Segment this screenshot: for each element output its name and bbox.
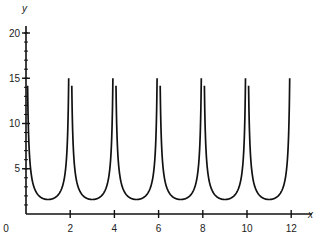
x-tick-label: 10 xyxy=(241,223,253,234)
chart: xy0246810125101520 xyxy=(0,0,318,236)
x-tick-label: 2 xyxy=(67,223,73,234)
x-tick-label: 8 xyxy=(200,223,206,234)
plot-area: xy0246810125101520 xyxy=(0,0,318,236)
x-axis-label: x xyxy=(307,209,314,220)
y-axis-label: y xyxy=(21,3,28,14)
y-tick-label: 15 xyxy=(9,73,21,84)
x-tick-label: 0 xyxy=(3,223,9,234)
x-tick-label: 6 xyxy=(156,223,162,234)
y-tick-label: 20 xyxy=(9,28,21,39)
x-tick-label: 4 xyxy=(112,223,118,234)
y-tick-label: 5 xyxy=(14,163,20,174)
y-tick-label: 10 xyxy=(9,118,21,129)
x-tick-label: 12 xyxy=(286,223,298,234)
data-line xyxy=(28,78,290,199)
